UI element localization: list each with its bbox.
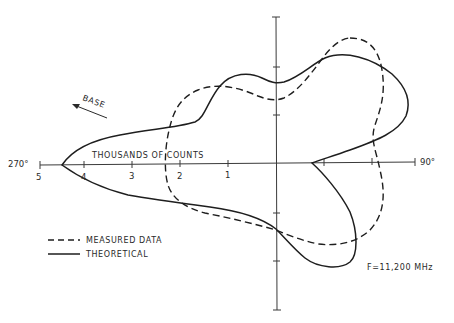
axes (40, 17, 415, 310)
chart-canvas: 270° 90° 5 4 3 2 1 THOUSANDS OF COUNTS B… (0, 0, 454, 323)
tick-label-5: 5 (36, 172, 41, 182)
frequency-note: F=11,200 MHz (367, 263, 433, 272)
legend-label-measured: MEASURED DATA (86, 236, 162, 245)
tick-label-1: 1 (225, 170, 230, 180)
axis-title: THOUSANDS OF COUNTS (91, 151, 204, 160)
tick-label-3: 3 (129, 171, 134, 181)
legend: MEASURED DATA THEORETICAL (48, 236, 162, 259)
angle-label-90: 90° (420, 157, 435, 167)
base-label: BASE (81, 93, 106, 109)
angle-label-270: 270° (8, 159, 28, 169)
tick-label-4: 4 (81, 172, 86, 182)
base-arrow: BASE (72, 93, 107, 118)
legend-label-theoretical: THEORETICAL (85, 250, 148, 259)
polar-pattern-chart: 270° 90° 5 4 3 2 1 THOUSANDS OF COUNTS B… (0, 0, 454, 323)
vertical-axis (276, 17, 277, 310)
tick-label-2: 2 (177, 171, 182, 181)
